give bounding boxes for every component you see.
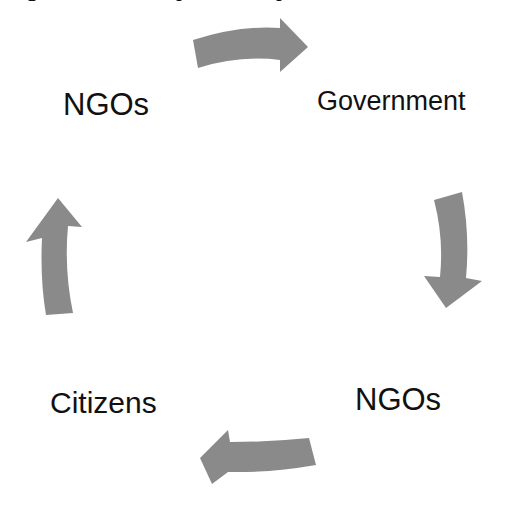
node-ngos-bottom: NGOs (355, 384, 441, 415)
cycle-diagram: NGOs Government NGOs Citizens (0, 0, 516, 518)
arrow-down-icon (424, 192, 482, 308)
arrow-left-icon (200, 430, 316, 484)
node-ngos-top: NGOs (63, 89, 149, 120)
node-government: Government (317, 88, 466, 115)
arrow-up-icon (26, 198, 82, 315)
arrows-layer (0, 0, 516, 518)
node-citizens: Citizens (50, 388, 157, 418)
arrow-right-icon (193, 18, 308, 72)
